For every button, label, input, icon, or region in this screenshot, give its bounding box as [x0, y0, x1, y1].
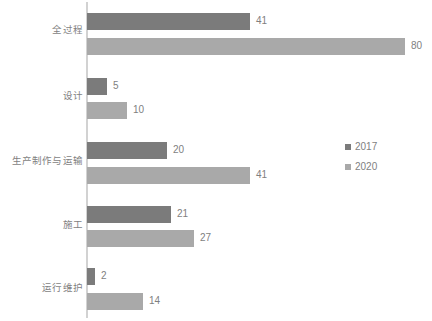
legend-item-2020[interactable]: 2020 [345, 161, 377, 173]
bar-value-2020-group-4: 14 [149, 295, 160, 307]
category-label-2: 生产制作与运输 [12, 155, 83, 167]
legend-label-2020: 2020 [355, 161, 377, 173]
legend-label-2017: 2017 [355, 141, 377, 153]
bar-2020-group-1[interactable] [87, 102, 127, 119]
bar-2020-group-2[interactable] [87, 167, 250, 184]
bar-value-2017-group-2: 20 [173, 144, 184, 156]
bar-value-2017-group-3: 21 [177, 208, 188, 220]
category-label-4: 运行维护 [42, 282, 83, 294]
bar-2020-group-3[interactable] [87, 230, 194, 247]
plot-area: 全过程 设计 生产制作与运输 施工 运行维护 41 80 5 10 20 41 … [0, 0, 432, 321]
category-label-3: 施工 [63, 219, 83, 231]
bar-value-2020-group-1: 10 [133, 104, 144, 116]
bar-value-2017-group-1: 5 [113, 80, 119, 92]
category-label-0: 全过程 [52, 24, 83, 36]
bar-2017-group-1[interactable] [87, 78, 107, 95]
bar-2017-group-3[interactable] [87, 206, 171, 223]
bar-value-2017-group-0: 41 [256, 15, 267, 27]
category-label-1: 设计 [63, 90, 83, 102]
bar-2017-group-2[interactable] [87, 142, 167, 159]
bar-value-2020-group-3: 27 [200, 232, 211, 244]
bar-2017-group-0[interactable] [87, 13, 250, 30]
legend-swatch-icon-2017 [345, 144, 351, 150]
legend-swatch-icon-2020 [345, 164, 351, 170]
bar-2020-group-0[interactable] [87, 38, 405, 55]
bar-value-2020-group-2: 41 [256, 169, 267, 181]
bar-value-2020-group-0: 80 [411, 40, 422, 52]
bar-value-2017-group-4: 2 [101, 270, 107, 282]
legend-item-2017[interactable]: 2017 [345, 141, 377, 153]
bar-2020-group-4[interactable] [87, 293, 143, 310]
bar-2017-group-4[interactable] [87, 268, 95, 285]
chart-legend: 2017 2020 [345, 141, 377, 173]
bar-chart: 全过程 设计 生产制作与运输 施工 运行维护 41 80 5 10 20 41 … [0, 0, 432, 321]
